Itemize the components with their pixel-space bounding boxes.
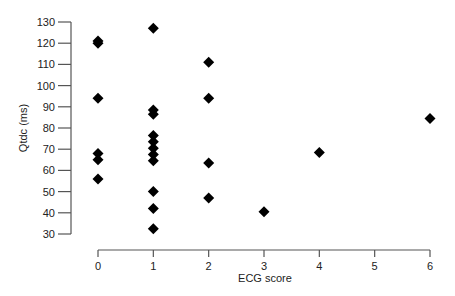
y-tick-label: 110	[37, 58, 55, 70]
data-points	[93, 23, 436, 234]
y-tick-label: 100	[37, 80, 55, 92]
x-tick-label: 6	[427, 260, 433, 272]
y-axis: 30405060708090100110120130	[37, 16, 71, 240]
data-point-diamond-icon	[148, 155, 159, 166]
data-point-diamond-icon	[314, 147, 325, 158]
data-point-diamond-icon	[148, 223, 159, 234]
x-tick-label: 1	[150, 260, 156, 272]
data-point-diamond-icon	[203, 192, 214, 203]
y-tick-label: 80	[43, 122, 55, 134]
data-point-diamond-icon	[203, 93, 214, 104]
data-point-diamond-icon	[93, 93, 104, 104]
y-tick-label: 120	[37, 37, 55, 49]
data-point-diamond-icon	[148, 203, 159, 214]
data-point-diamond-icon	[93, 38, 104, 49]
y-tick-label: 40	[43, 207, 55, 219]
x-tick-label: 2	[206, 260, 212, 272]
y-tick-label: 30	[43, 228, 55, 240]
x-axis: 0123456	[95, 250, 433, 272]
x-tick-label: 3	[261, 260, 267, 272]
data-point-diamond-icon	[203, 57, 214, 68]
y-tick-label: 70	[43, 143, 55, 155]
x-tick-label: 0	[95, 260, 101, 272]
x-axis-label: ECG score	[238, 272, 292, 284]
y-tick-label: 130	[37, 16, 55, 28]
y-tick-label: 50	[43, 186, 55, 198]
data-point-diamond-icon	[148, 186, 159, 197]
y-tick-label: 90	[43, 101, 55, 113]
y-tick-label: 60	[43, 164, 55, 176]
scatter-chart: 30405060708090100110120130 0123456 Qtdc …	[0, 0, 455, 296]
data-point-diamond-icon	[425, 113, 436, 124]
data-point-diamond-icon	[259, 206, 270, 217]
data-point-diamond-icon	[93, 154, 104, 165]
data-point-diamond-icon	[148, 23, 159, 34]
y-axis-label: Qtdc (ms)	[17, 104, 29, 152]
data-point-diamond-icon	[203, 157, 214, 168]
data-point-diamond-icon	[93, 173, 104, 184]
x-tick-label: 5	[372, 260, 378, 272]
x-tick-label: 4	[316, 260, 322, 272]
